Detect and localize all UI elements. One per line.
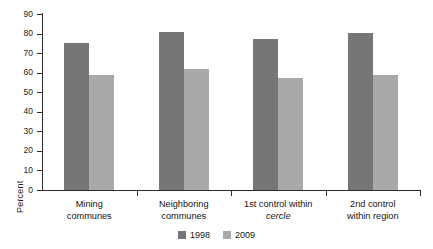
bar-2009-2	[184, 69, 209, 190]
x-tick-mark	[137, 191, 138, 196]
y-tick-mark	[37, 131, 42, 132]
legend-item-1998[interactable]: 1998	[178, 230, 210, 240]
legend-label: 1998	[190, 230, 210, 240]
y-tick-mark	[37, 73, 42, 74]
y-tick-mark	[37, 92, 42, 93]
x-tick-mark	[231, 191, 232, 196]
category-label-line: cercle	[225, 211, 332, 223]
category-label-4: 2nd controlwithin region	[320, 199, 427, 222]
category-label-line: 1st control within	[225, 199, 332, 211]
y-tick-mark	[37, 151, 42, 152]
bar-1998-4	[348, 33, 373, 190]
y-tick-mark	[37, 14, 42, 15]
category-label-line: Neighboring	[131, 199, 238, 211]
y-tick-mark	[37, 53, 42, 54]
y-tick-label: 50	[0, 88, 33, 97]
category-label-3: 1st control withincercle	[225, 199, 332, 222]
legend-swatch-icon	[178, 231, 186, 239]
y-tick-label: 30	[0, 127, 33, 136]
chart-legend: 19982009	[0, 230, 433, 240]
y-tick-label: 90	[0, 10, 33, 19]
y-tick-label: 60	[0, 68, 33, 77]
y-tick-mark	[37, 112, 42, 113]
category-label-line: communes	[36, 211, 143, 223]
bar-chart: Percent 9080706050403020100 Miningcommun…	[0, 0, 433, 249]
category-label-1: Miningcommunes	[36, 199, 143, 222]
x-tick-mark	[326, 191, 327, 196]
y-tick-label: 80	[0, 29, 33, 38]
y-tick-label: 0	[0, 186, 33, 195]
y-tick-mark	[37, 34, 42, 35]
y-tick-label: 40	[0, 107, 33, 116]
y-tick-label: 20	[0, 146, 33, 155]
x-tick-mark	[420, 191, 421, 196]
category-label-line: communes	[131, 211, 238, 223]
y-axis-line	[42, 13, 43, 191]
y-tick-mark	[37, 170, 42, 171]
category-label-2: Neighboringcommunes	[131, 199, 238, 222]
bar-2009-3	[278, 78, 303, 190]
bar-1998-2	[159, 32, 184, 190]
bar-1998-1	[64, 43, 89, 190]
y-tick-label: 70	[0, 49, 33, 58]
legend-item-2009[interactable]: 2009	[223, 230, 255, 240]
y-tick-mark	[37, 190, 42, 191]
bar-1998-3	[253, 39, 278, 190]
category-label-line: within region	[320, 211, 427, 223]
bar-2009-1	[89, 75, 114, 190]
legend-swatch-icon	[223, 231, 231, 239]
y-tick-label: 10	[0, 166, 33, 175]
legend-label: 2009	[235, 230, 255, 240]
category-label-line: Mining	[36, 199, 143, 211]
category-label-line: 2nd control	[320, 199, 427, 211]
bar-2009-4	[373, 75, 398, 190]
